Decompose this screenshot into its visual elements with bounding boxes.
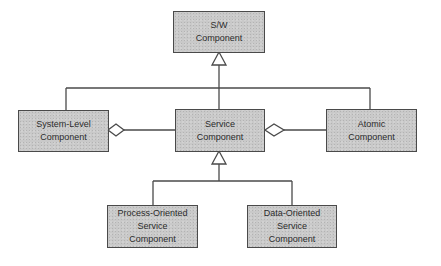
generalization-triangle-icon [212,52,226,65]
atomic-component-box: Atomic Component [326,109,417,152]
node-label: Component [196,32,243,45]
node-label: Component [197,131,244,144]
node-label: Service [137,220,167,233]
node-label: Service [277,220,307,233]
data-oriented-service-component-box: Data-Oriented Service Component [247,205,337,248]
node-label: S/W [211,19,228,32]
aggregation-diamond-icon [265,124,284,136]
node-label: Component [40,131,87,144]
node-label: Atomic [358,118,386,131]
node-label: Component [129,233,176,246]
service-component-box: Service Component [175,109,265,152]
node-label: Component [348,131,395,144]
system-level-component-box: System-Level Component [18,110,109,152]
node-label: Data-Oriented [264,207,321,220]
node-label: Process-Oriented [117,207,187,220]
generalization-triangle-icon [212,151,226,164]
process-oriented-service-component-box: Process-Oriented Service Component [107,205,198,248]
aggregation-diamond-icon [108,124,124,136]
node-label: Service [205,118,235,131]
node-label: Component [269,233,316,246]
sw-component-box: S/W Component [173,11,265,53]
node-label: System-Level [36,118,91,131]
